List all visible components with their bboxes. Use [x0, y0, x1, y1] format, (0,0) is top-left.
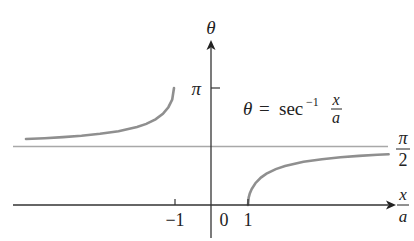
tick-label-0: 0 [220, 210, 229, 230]
tick-label-pi: π [191, 78, 201, 99]
tick-label-neg1: −1 [165, 210, 184, 230]
x-axis-label: x a [397, 185, 409, 226]
asymptote-label-den: 2 [399, 150, 408, 170]
equation-lhs: θ [243, 98, 252, 119]
curve-left-branch [26, 88, 174, 139]
y-axis-label: θ [206, 17, 215, 38]
equation-label: θ = sec −1 x a [243, 91, 342, 126]
equation-equals: = [259, 98, 270, 119]
x-axis-label-den: a [399, 207, 408, 226]
equation-func: sec [279, 98, 303, 119]
asymptote-label-num: π [398, 128, 408, 148]
x-axis-label-num: x [398, 185, 407, 204]
tick-label-1: 1 [244, 210, 253, 230]
asymptote-label: π 2 [396, 128, 410, 170]
equation-sup: −1 [306, 95, 319, 109]
inverse-secant-plot: θ π −1 0 1 θ = sec −1 x a π 2 x a [0, 0, 414, 241]
equation-frac-den: a [332, 109, 340, 126]
curve-right-branch [248, 154, 389, 205]
equation-frac-num: x [331, 91, 339, 108]
